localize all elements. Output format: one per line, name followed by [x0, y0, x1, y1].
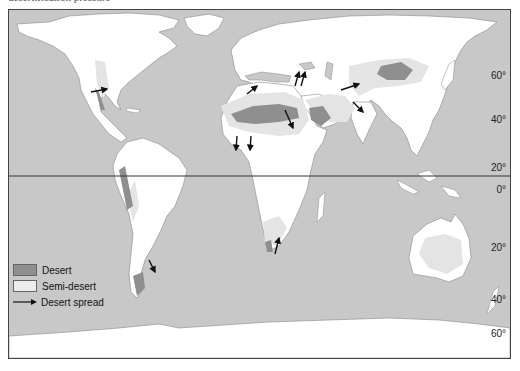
- map-frame: 60° 40° 20° 0° 20° 40° 60° Desert Semi-d…: [8, 9, 511, 359]
- lat-label-40n: 40°: [491, 114, 506, 125]
- legend-item-desert: Desert: [13, 262, 104, 278]
- lat-label-20n: 20°: [491, 162, 506, 173]
- lat-label-60n: 60°: [491, 70, 506, 81]
- antarctica: [9, 318, 510, 358]
- legend-item-semi-desert: Semi-desert: [13, 278, 104, 294]
- map-legend: Desert Semi-desert Desert spread: [13, 262, 104, 310]
- cuba: [126, 108, 141, 113]
- legend-label-desert-spread: Desert spread: [41, 297, 104, 308]
- lat-label-20s: 20°: [491, 242, 506, 253]
- lat-label-0: 0°: [496, 184, 506, 195]
- madagascar: [317, 192, 325, 222]
- legend-label-desert: Desert: [42, 265, 71, 276]
- semi-desert-swatch: [13, 280, 37, 292]
- greenland: [184, 14, 224, 36]
- cropped-caption: desertification pressure: [0, 0, 520, 9]
- caption-text: desertification pressure: [8, 0, 110, 3]
- south-america: [113, 138, 187, 298]
- desert-swatch: [13, 264, 37, 276]
- lat-label-60s: 60°: [491, 328, 506, 339]
- legend-item-desert-spread: Desert spread: [13, 294, 104, 310]
- indonesia: [397, 170, 461, 198]
- india: [351, 102, 377, 144]
- arrow-icon: [13, 296, 37, 308]
- legend-label-semi-desert: Semi-desert: [42, 281, 96, 292]
- lat-label-40s: 40°: [491, 294, 506, 305]
